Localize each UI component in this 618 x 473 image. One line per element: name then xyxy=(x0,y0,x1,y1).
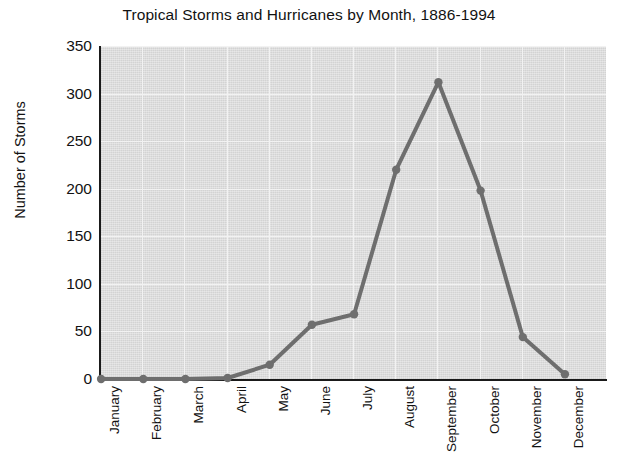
x-tick-label: April xyxy=(234,386,249,413)
x-tick-label: January xyxy=(107,386,122,434)
x-tick-label: May xyxy=(276,386,291,412)
x-axis-tick-labels: JanuaryFebruaryMarchAprilMayJuneJulyAugu… xyxy=(0,0,618,473)
x-tick-label: September xyxy=(444,386,459,452)
x-tick-label: October xyxy=(487,386,502,434)
x-tick-label: June xyxy=(318,386,333,415)
x-tick-label: December xyxy=(571,386,586,448)
x-tick-label: July xyxy=(360,386,375,410)
x-tick-label: August xyxy=(402,386,417,428)
x-tick-label: February xyxy=(149,386,164,440)
chart-container: Tropical Storms and Hurricanes by Month,… xyxy=(0,0,618,473)
x-tick-label: March xyxy=(191,386,206,424)
x-tick-label: November xyxy=(529,386,544,448)
